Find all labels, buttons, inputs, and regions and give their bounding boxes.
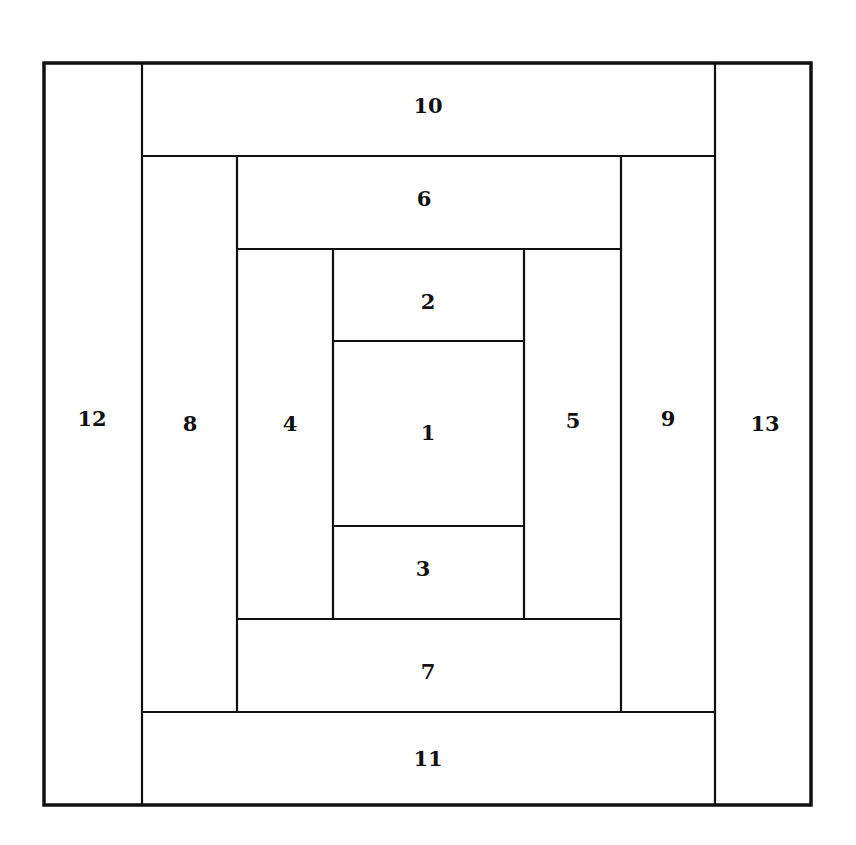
- piece-label-11: 11: [413, 746, 442, 771]
- piece-label-7: 7: [421, 659, 436, 684]
- log-cabin-block-diagram: 1 2 3 4 5 6 7 8 9 10 11 12 13: [0, 0, 856, 845]
- piece-label-8: 8: [183, 411, 198, 436]
- piece-label-3: 3: [416, 556, 431, 581]
- piece-label-6: 6: [417, 186, 432, 211]
- piece-label-1: 1: [421, 420, 436, 445]
- piece-label-10: 10: [413, 93, 442, 118]
- piece-label-13: 13: [750, 411, 779, 436]
- piece-label-5: 5: [566, 408, 581, 433]
- piece-label-4: 4: [283, 411, 298, 436]
- piece-label-2: 2: [421, 289, 436, 314]
- piece-label-12: 12: [77, 406, 106, 431]
- piece-label-9: 9: [661, 406, 676, 431]
